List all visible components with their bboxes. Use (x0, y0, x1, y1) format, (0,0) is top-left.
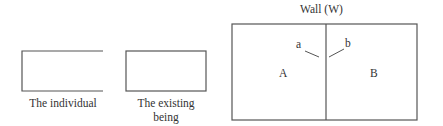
wall-box (232, 24, 417, 120)
point-b-label: b (345, 37, 351, 49)
individual-box (22, 51, 103, 91)
point-a-label: a (296, 38, 301, 50)
individual-caption: The individual (8, 96, 118, 110)
wall-title: Wall (W) (300, 3, 343, 15)
region-b-label: B (370, 67, 378, 79)
pointer-a (305, 51, 319, 57)
existing-being-caption: The existing being (118, 96, 214, 124)
pointer-b (329, 49, 344, 57)
existing-being-box (126, 51, 206, 91)
existing-being-caption-line2: being (118, 110, 214, 124)
existing-being-caption-line1: The existing (118, 96, 214, 110)
region-a-label: A (279, 67, 287, 79)
